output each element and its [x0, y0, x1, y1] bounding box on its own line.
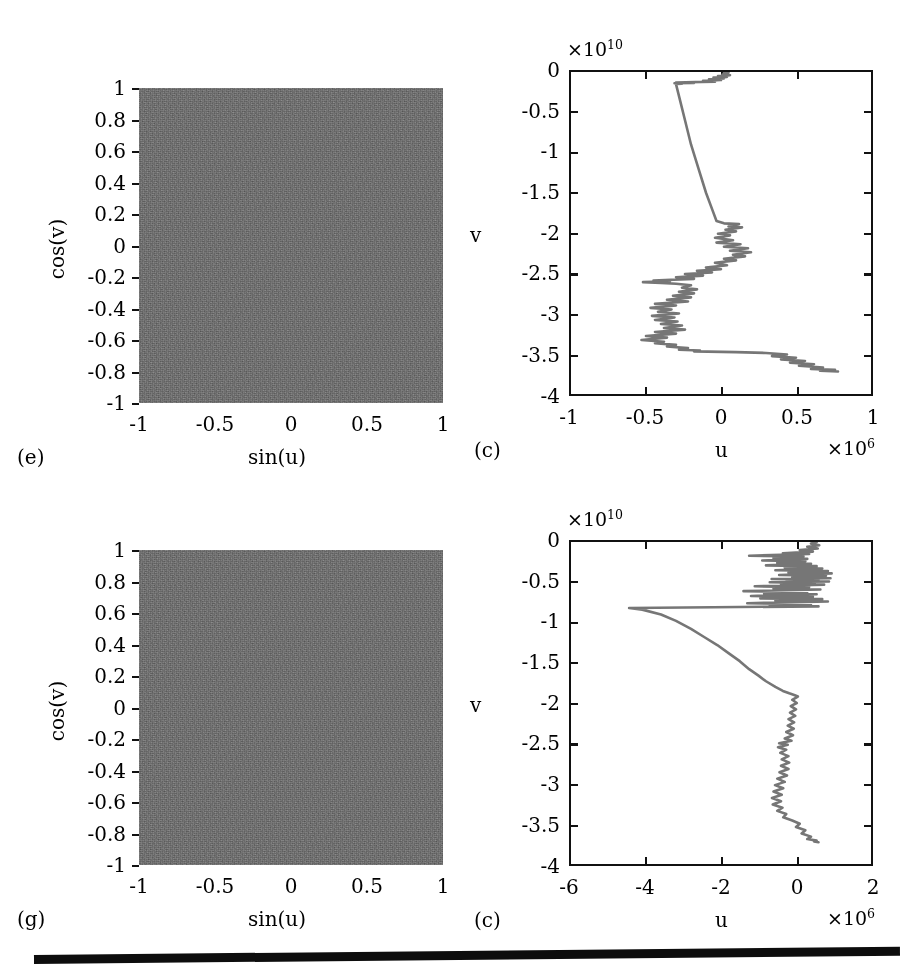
panel-c-top-y-exponent: ×1010 — [567, 39, 623, 59]
panel-e-ytick-label-7: -0.4 — [70, 299, 126, 319]
panel-e-ytick-label-9: -0.8 — [70, 362, 126, 382]
panel-e-xtick-label-3: 0.5 — [351, 414, 383, 434]
panel-e-ytick-7 — [132, 309, 139, 311]
panel-c-top-ytick-label-1: -0.5 — [488, 101, 560, 121]
panel-c-top: ×1010 0 -0.5 -1 — [462, 0, 924, 490]
panel-e-ytick-label-6: -0.2 — [70, 267, 126, 287]
panel-c-bottom-xtick-label-0: -6 — [559, 877, 578, 897]
panel-c-top-xtick-label-2: 0 — [715, 407, 728, 427]
panel-e-image-area — [139, 88, 443, 403]
panel-g-ytick-4 — [132, 676, 139, 678]
panel-g-image-area — [139, 550, 443, 865]
panel-c-top-ylabel: v — [470, 225, 481, 245]
panel-c-bottom-ytick-label-6: -3 — [488, 774, 560, 794]
panel-e-ytick-label-1: 0.8 — [78, 110, 126, 130]
panel-c-bottom-ytick-label-0: 0 — [498, 530, 560, 550]
panel-g-ytick-label-6: -0.2 — [70, 729, 126, 749]
panel-c-bottom-xtick-label-3: 0 — [791, 877, 804, 897]
panel-c-bottom-ytick-label-1: -0.5 — [488, 571, 560, 591]
panel-e: 1 0.8 0.6 0.4 0.2 0 -0.2 -0.4 -0.6 -0.8 … — [0, 0, 462, 490]
panel-g-ytick-label-9: -0.8 — [70, 824, 126, 844]
panel-c-bottom-y-exponent-mantissa: ×10 — [567, 508, 607, 530]
panel-c-top-ytick-label-6: -3 — [488, 304, 560, 324]
panel-c-top-ytick-label-5: -2.5 — [488, 263, 560, 283]
panel-e-ytick-label-0: 1 — [78, 78, 126, 98]
panel-c-bottom-ytick-label-2: -1 — [488, 611, 560, 631]
panel-g-ytick-label-7: -0.4 — [70, 761, 126, 781]
panel-c-top-x-exponent: ×106 — [827, 438, 875, 458]
panel-c-top-xtick-label-4: 1 — [867, 407, 880, 427]
panel-e-ytick-4 — [132, 214, 139, 216]
panel-g-ytick-label-5: 0 — [78, 698, 126, 718]
panel-c-top-xtick-label-1: -0.5 — [626, 407, 665, 427]
panel-c-top-xtick-label-0: -1 — [559, 407, 578, 427]
panel-g-xtick-label-3: 0.5 — [351, 876, 383, 896]
panel-c-bottom-ylabel: v — [470, 695, 481, 715]
panel-e-ytick-1 — [132, 120, 139, 122]
panel-c-bottom-xtick-label-1: -4 — [635, 877, 654, 897]
panel-e-ylabel: cos(v) — [47, 189, 67, 309]
panel-e-ytick-label-5: 0 — [78, 236, 126, 256]
panel-g-ytick-label-4: 0.2 — [78, 666, 126, 686]
panel-e-xtick-label-4: 1 — [437, 414, 450, 434]
panel-g-xtick-label-0: -1 — [129, 876, 148, 896]
panel-c-bottom-label: (c) — [474, 910, 501, 930]
panel-e-xtick-label-2: 0 — [285, 414, 298, 434]
panel-g-ylabel: cos(v) — [47, 651, 67, 771]
panel-c-bottom-curve — [571, 542, 871, 864]
panel-c-top-trajectory — [642, 72, 839, 371]
panel-e-ytick-3 — [132, 183, 139, 185]
panel-g-xlabel: sin(u) — [248, 909, 306, 929]
panel-c-top-x-exponent-sup: 6 — [867, 436, 875, 451]
panel-e-ytick-label-4: 0.2 — [78, 204, 126, 224]
panel-c-bottom-x-exponent-mantissa: ×10 — [827, 907, 867, 929]
panel-g-ytick-1 — [132, 582, 139, 584]
panel-g-ytick-8 — [132, 802, 139, 804]
panel-c-bottom-x-exponent: ×106 — [827, 908, 875, 928]
panel-e-xtick-label-0: -1 — [129, 414, 148, 434]
panel-c-top-ytick-label-8: -4 — [488, 386, 560, 406]
panel-g-ytick-7 — [132, 771, 139, 773]
panel-g-ytick-10 — [132, 865, 139, 867]
panel-g-ytick-label-10: -1 — [70, 855, 126, 875]
panel-e-noise-field — [139, 88, 443, 403]
panel-g-ytick-6 — [132, 739, 139, 741]
panel-c-bottom-ytick-label-7: -3.5 — [488, 815, 560, 835]
panel-g-ytick-label-2: 0.6 — [78, 603, 126, 623]
panel-c-bottom-ytick-label-8: -4 — [488, 856, 560, 876]
panel-g-ytick-label-0: 1 — [78, 540, 126, 560]
panel-e-ytick-label-2: 0.6 — [78, 141, 126, 161]
panel-g-xtick-label-2: 0 — [285, 876, 298, 896]
panel-e-ytick-10 — [132, 403, 139, 405]
panel-c-top-ytick-label-0: 0 — [498, 60, 560, 80]
panel-c-top-curve-svg — [571, 72, 871, 394]
panel-c-bottom-ytick-label-3: -1.5 — [488, 652, 560, 672]
panel-c-top-axes — [569, 70, 873, 396]
panel-g: 1 0.8 0.6 0.4 0.2 0 -0.2 -0.4 -0.6 -0.8 … — [0, 462, 462, 952]
panel-e-ytick-8 — [132, 340, 139, 342]
panel-g-ytick-2 — [132, 613, 139, 615]
panel-c-top-curve — [571, 72, 871, 394]
panel-g-ytick-label-3: 0.4 — [78, 635, 126, 655]
panel-c-top-y-exponent-sup: 10 — [607, 37, 623, 52]
panel-g-ytick-0 — [132, 550, 139, 552]
panel-g-ytick-3 — [132, 645, 139, 647]
panel-e-ytick-5 — [132, 246, 139, 248]
panel-c-bottom-ytick-label-4: -2 — [488, 693, 560, 713]
panel-c-top-ytick-label-2: -1 — [488, 141, 560, 161]
panel-c-top-label: (c) — [474, 440, 501, 460]
panel-c-bottom-y-exponent: ×1010 — [567, 509, 623, 529]
panel-e-xtick-label-1: -0.5 — [196, 414, 235, 434]
panel-g-ytick-9 — [132, 834, 139, 836]
panel-g-ytick-label-1: 0.8 — [78, 572, 126, 592]
panel-g-ytick-5 — [132, 708, 139, 710]
panel-e-ytick-0 — [132, 88, 139, 90]
panel-c-bottom-xtick-label-2: -2 — [711, 877, 730, 897]
panel-c-bottom: ×1010 0 -0.5 -1 -1.5 -2 -2.5 -3 -3.5 — [462, 462, 924, 952]
panel-c-bottom-curve-svg — [571, 542, 871, 864]
panel-g-xtick-label-4: 1 — [437, 876, 450, 896]
panel-c-top-xtick-label-3: 0.5 — [781, 407, 813, 427]
panel-e-ytick-label-10: -1 — [70, 393, 126, 413]
panel-g-xtick-label-1: -0.5 — [196, 876, 235, 896]
panel-c-top-x-exponent-mantissa: ×10 — [827, 437, 867, 459]
